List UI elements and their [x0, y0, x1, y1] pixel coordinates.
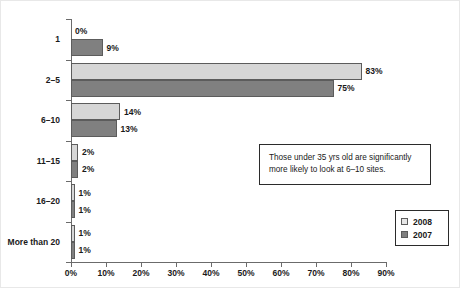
bar-value-label: 75%: [338, 83, 355, 93]
y-axis-tick: [66, 100, 71, 101]
x-axis-tick: [141, 263, 142, 267]
bar-value-label: 2%: [82, 164, 94, 174]
y-axis-tick: [66, 181, 71, 182]
bar-value-label: 13%: [121, 124, 138, 134]
x-axis-tick: [281, 263, 282, 267]
bar-value-label: 1%: [79, 228, 91, 238]
x-axis-tick-label: 80%: [342, 268, 359, 278]
legend-swatch-2007-icon: [401, 231, 408, 238]
y-axis-tick: [66, 19, 71, 20]
bar-value-label: 0%: [75, 26, 87, 36]
x-axis-tick-label: 40%: [202, 268, 219, 278]
x-axis-tick-label: 30%: [167, 268, 184, 278]
x-axis-tick-label: 10%: [97, 268, 114, 278]
bar-2008-More-than-20: [71, 225, 75, 242]
legend-label-2007: 2007: [413, 230, 432, 240]
bar-value-label: 1%: [79, 205, 91, 215]
plot-area: 0%9%83%75%14%13%2%2%1%1%1%1% 12–56–1011–…: [1, 1, 459, 287]
bar-value-label: 83%: [366, 66, 383, 76]
x-axis-line: [71, 262, 387, 263]
legend-item-2008: 2008: [401, 215, 443, 228]
x-axis-tick: [351, 263, 352, 267]
bar-2007-11–15: [71, 161, 78, 178]
bar-2007-6–10: [71, 120, 117, 137]
bar-value-label: 2%: [82, 147, 94, 157]
chart-figure: 0%9%83%75%14%13%2%2%1%1%1%1% 12–56–1011–…: [0, 0, 460, 288]
x-axis-tick: [386, 263, 387, 267]
y-axis-tick: [66, 60, 71, 61]
bar-2008-6–10: [71, 103, 120, 120]
bar-value-label: 14%: [124, 107, 141, 117]
category-label: 1: [55, 34, 60, 44]
y-axis-tick: [66, 222, 71, 223]
bar-2007-1: [71, 39, 103, 56]
x-axis-tick-label: 70%: [307, 268, 324, 278]
y-axis-tick: [66, 141, 71, 142]
x-axis-tick-label: 60%: [272, 268, 289, 278]
legend-label-2008: 2008: [413, 217, 432, 227]
category-label: 6–10: [41, 115, 60, 125]
x-axis-tick: [211, 263, 212, 267]
insight-callout: Those under 35 yrs old are significantly…: [259, 144, 431, 185]
category-label: 16–20: [36, 196, 60, 206]
bar-value-label: 1%: [79, 245, 91, 255]
insight-callout-line-2: more likely to look at 6–10 sites.: [269, 164, 421, 176]
x-axis-tick: [176, 263, 177, 267]
bar-2008-16–20: [71, 184, 75, 201]
x-axis-tick-label: 50%: [237, 268, 254, 278]
legend-item-2007: 2007: [401, 228, 443, 241]
bar-2007-More-than-20: [71, 242, 75, 259]
x-axis-tick-label: 20%: [132, 268, 149, 278]
x-axis-tick: [71, 263, 72, 267]
chart-legend: 2008 2007: [395, 210, 449, 246]
bar-value-label: 9%: [107, 43, 119, 53]
x-axis-tick: [106, 263, 107, 267]
legend-swatch-2008-icon: [401, 218, 408, 225]
category-label: 2–5: [46, 75, 60, 85]
insight-callout-line-1: Those under 35 yrs old are significantly: [269, 152, 421, 164]
x-axis-tick: [246, 263, 247, 267]
bar-2008-11–15: [71, 144, 78, 161]
bar-2007-2–5: [71, 80, 334, 97]
category-label: More than 20: [8, 237, 60, 247]
x-axis-tick-label: 90%: [377, 268, 394, 278]
category-label: 11–15: [37, 156, 60, 166]
x-axis-tick-label: 0%: [65, 268, 77, 278]
bar-value-label: 1%: [79, 188, 91, 198]
x-axis-tick: [316, 263, 317, 267]
bar-2008-2–5: [71, 63, 362, 80]
bar-2007-16–20: [71, 201, 75, 218]
